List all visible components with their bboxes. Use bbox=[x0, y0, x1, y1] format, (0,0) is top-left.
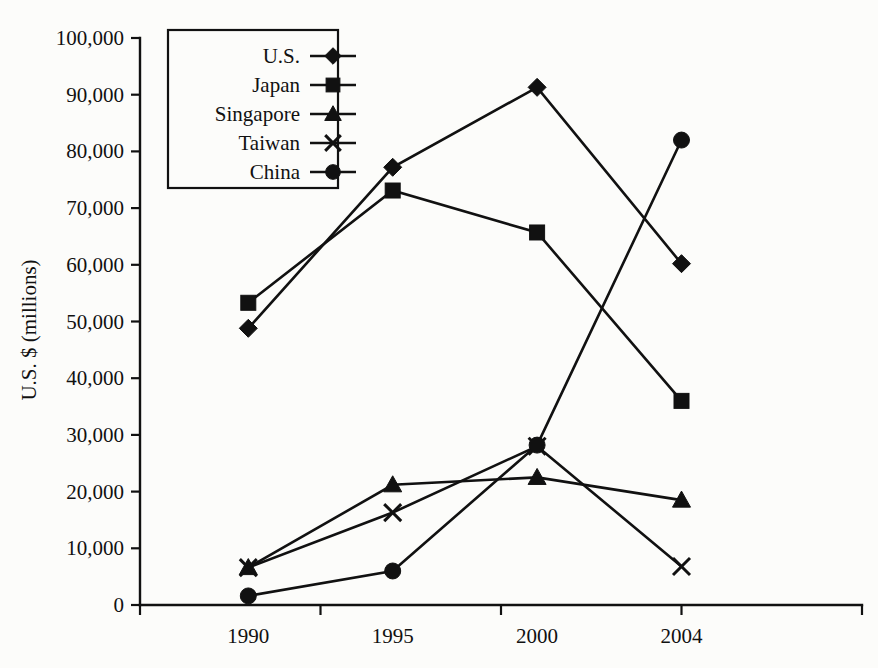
y-tick-label: 100,000 bbox=[56, 26, 124, 50]
y-axis-tick-labels: 010,00020,00030,00040,00050,00060,00070,… bbox=[56, 26, 124, 617]
x-tick-label: 2000 bbox=[516, 624, 558, 648]
legend-label-taiwan: Taiwan bbox=[238, 131, 300, 155]
y-tick-label: 60,000 bbox=[66, 253, 124, 277]
y-axis-ticks bbox=[131, 38, 140, 605]
y-tick-label: 70,000 bbox=[66, 196, 124, 220]
marker-circle bbox=[385, 563, 401, 579]
marker-square bbox=[385, 183, 400, 198]
x-tick-label: 1995 bbox=[372, 624, 414, 648]
y-tick-label: 90,000 bbox=[66, 83, 124, 107]
legend-label-japan: Japan bbox=[252, 73, 300, 97]
series-japan bbox=[241, 183, 689, 408]
y-tick-label: 50,000 bbox=[66, 310, 124, 334]
chart-legend: U.S.JapanSingaporeTaiwanChina bbox=[168, 30, 356, 188]
y-tick-label: 40,000 bbox=[66, 366, 124, 390]
marker-square bbox=[241, 295, 256, 310]
y-axis-title: U.S. $ (millions) bbox=[17, 259, 41, 400]
series-line bbox=[248, 140, 681, 596]
y-tick-label: 30,000 bbox=[66, 423, 124, 447]
y-tick-label: 0 bbox=[114, 593, 125, 617]
series-singapore bbox=[239, 468, 690, 574]
y-tick-label: 80,000 bbox=[66, 139, 124, 163]
marker-circle bbox=[326, 165, 341, 180]
y-tick-label: 10,000 bbox=[66, 536, 124, 560]
legend-label-us: U.S. bbox=[263, 44, 300, 68]
x-axis-tick-labels: 1990199520002004 bbox=[227, 624, 703, 648]
marker-square bbox=[326, 78, 340, 92]
chart-page: 010,00020,00030,00040,00050,00060,00070,… bbox=[0, 0, 878, 668]
series-line bbox=[248, 191, 681, 401]
y-tick-label: 20,000 bbox=[66, 480, 124, 504]
x-tick-label: 2004 bbox=[661, 624, 704, 648]
line-chart: 010,00020,00030,00040,00050,00060,00070,… bbox=[0, 0, 878, 668]
x-axis-ticks bbox=[140, 605, 862, 615]
marker-circle bbox=[674, 132, 690, 148]
marker-triangle bbox=[528, 468, 546, 484]
marker-circle bbox=[529, 437, 545, 453]
legend-label-singapore: Singapore bbox=[215, 102, 300, 126]
marker-square bbox=[530, 225, 545, 240]
x-tick-label: 1990 bbox=[227, 624, 269, 648]
series-line bbox=[248, 477, 681, 567]
legend-label-china: China bbox=[250, 160, 301, 184]
marker-square bbox=[674, 393, 689, 408]
marker-circle bbox=[240, 588, 256, 604]
